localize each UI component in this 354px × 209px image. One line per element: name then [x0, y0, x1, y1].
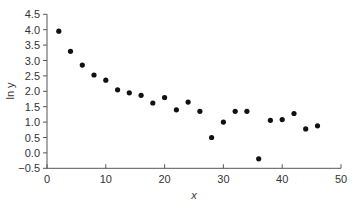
data-point [139, 93, 144, 98]
data-point [197, 109, 202, 114]
data-point [115, 87, 120, 92]
data-point [221, 120, 226, 125]
data-point [291, 111, 296, 116]
data-point [256, 156, 261, 161]
y-axis: −0.50.00.51.01.52.02.53.03.54.04.5 [18, 8, 47, 174]
data-point [162, 95, 167, 100]
y-tick-label: 1.0 [25, 116, 40, 128]
data-point [56, 29, 61, 34]
y-tick-label: 0.0 [25, 147, 40, 159]
x-tick-label: 0 [44, 173, 50, 185]
data-point [150, 100, 155, 105]
x-tick-label: 50 [335, 173, 347, 185]
y-tick-label: 1.5 [25, 101, 40, 113]
y-tick-label: 2.0 [25, 85, 40, 97]
x-tick-label: 30 [217, 173, 229, 185]
y-tick-label: 2.5 [25, 70, 40, 82]
y-tick-label: −0.5 [18, 162, 40, 174]
data-point [174, 107, 179, 112]
scatter-chart: −0.50.00.51.01.52.02.53.03.54.04.5 01020… [0, 0, 354, 209]
x-axis-title: x [190, 189, 197, 201]
data-point [244, 109, 249, 114]
y-tick-label: 4.0 [25, 24, 40, 36]
x-tick-label: 40 [276, 173, 288, 185]
x-tick-label: 20 [158, 173, 170, 185]
data-point [280, 117, 285, 122]
data-point [186, 100, 191, 105]
data-point [315, 123, 320, 128]
y-tick-label: 3.0 [25, 55, 40, 67]
y-tick-label: 3.5 [25, 39, 40, 51]
data-point [233, 109, 238, 114]
data-point [209, 135, 214, 140]
data-point [268, 118, 273, 123]
y-tick-label: 4.5 [25, 8, 40, 20]
data-point [103, 78, 108, 83]
y-axis-title: ln y [4, 82, 16, 100]
data-point [80, 63, 85, 68]
data-point [127, 90, 132, 95]
data-point [303, 126, 308, 131]
data-points [56, 29, 320, 162]
x-tick-label: 10 [100, 173, 112, 185]
data-point [91, 72, 96, 77]
data-point [68, 49, 73, 54]
x-axis: 01020304050 [44, 164, 347, 185]
y-tick-label: 0.5 [25, 132, 40, 144]
